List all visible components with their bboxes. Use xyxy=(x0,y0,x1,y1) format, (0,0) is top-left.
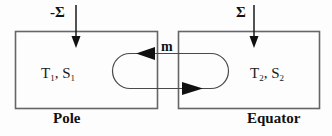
state-pole-T-sub: 1 xyxy=(50,73,55,83)
state-label-equator: T2, S2 xyxy=(250,66,284,81)
flow-arrowhead-bottom-right xyxy=(182,82,203,95)
state-equator-sep: , S xyxy=(264,65,280,81)
box-pole xyxy=(16,32,158,109)
flux-label-pole: -Σ xyxy=(50,5,65,20)
state-label-pole: T1, S1 xyxy=(41,66,75,81)
caption-equator: Equator xyxy=(247,111,300,126)
box-equator xyxy=(179,32,320,109)
state-pole-sep: , S xyxy=(55,65,71,81)
caption-pole: Pole xyxy=(53,111,81,126)
flux-arrow-right xyxy=(250,5,259,48)
state-equator-S-sub: 2 xyxy=(280,73,285,83)
state-pole-T: T xyxy=(41,65,50,81)
state-equator-T-sub: 2 xyxy=(259,73,264,83)
figure-canvas: -Σ Σ T1, S1 T2, S2 Pole Equator m xyxy=(0,0,332,136)
flux-label-equator: Σ xyxy=(236,5,246,20)
state-pole-S-sub: 1 xyxy=(71,73,76,83)
circulation-loop xyxy=(113,54,229,89)
flow-rate-label: m xyxy=(161,40,173,54)
state-equator-T: T xyxy=(250,65,259,81)
flux-arrow-left xyxy=(72,5,81,48)
flow-arrowhead-top-left xyxy=(136,47,155,60)
